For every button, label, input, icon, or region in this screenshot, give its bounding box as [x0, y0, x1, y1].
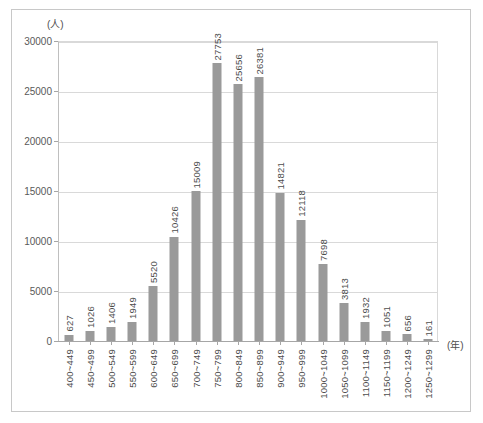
- bar-slot: 27753: [206, 41, 227, 341]
- x-axis-category-label: 600~649: [148, 349, 159, 388]
- x-axis-category-label: 450~499: [84, 349, 95, 388]
- x-axis-tick-mark: [69, 341, 70, 345]
- x-axis-tick-mark: [301, 341, 302, 345]
- y-axis-tick-mark: [54, 41, 58, 42]
- x-axis-tick-mark: [259, 341, 260, 345]
- bar-slot: 627: [58, 41, 79, 341]
- bar-slot: 1932: [354, 41, 375, 341]
- x-axis-tick-mark: [407, 341, 408, 345]
- bar-chart-figure: (人) (年) 300002500020000150001000050000 6…: [0, 0, 483, 423]
- y-axis-tick-mark: [54, 341, 58, 342]
- y-axis-tick-label: 25000: [24, 86, 52, 97]
- x-axis-tick-mark: [280, 341, 281, 345]
- bar-value-label: 27753: [211, 33, 222, 60]
- bar-slot: 15009: [185, 41, 206, 341]
- x-axis-category-label: 750~799: [211, 349, 222, 388]
- bar[interactable]: [128, 322, 137, 341]
- y-axis-tick-mark: [54, 191, 58, 192]
- x-axis-tick-mark: [365, 341, 366, 345]
- x-axis-tick-mark: [196, 341, 197, 345]
- bar-value-label: 161: [423, 320, 434, 336]
- x-axis-category-label: 800~849: [232, 349, 243, 388]
- bar-value-label: 12118: [296, 190, 307, 217]
- y-axis-tick-mark: [54, 91, 58, 92]
- bar-slot: 656: [397, 41, 418, 341]
- bar[interactable]: [149, 286, 158, 341]
- bar-slot: 10426: [164, 41, 185, 341]
- x-axis-category-label: 1050~1099: [338, 349, 349, 399]
- y-axis-tick-mark: [54, 241, 58, 242]
- bar-slot: 1949: [122, 41, 143, 341]
- bar[interactable]: [212, 63, 221, 341]
- x-axis-tick-mark: [111, 341, 112, 345]
- bar-slot: 26381: [249, 41, 270, 341]
- x-axis-tick-mark: [153, 341, 154, 345]
- x-axis-tick-mark: [323, 341, 324, 345]
- bar-slot: 3813: [333, 41, 354, 341]
- x-axis-category-label: 700~749: [190, 349, 201, 388]
- bar-slot: 1406: [100, 41, 121, 341]
- bar-value-label: 1932: [359, 297, 370, 319]
- bar-value-label: 15009: [190, 161, 201, 188]
- bar[interactable]: [191, 191, 200, 341]
- bar-value-label: 5520: [148, 261, 159, 283]
- y-axis-tick-label: 30000: [24, 36, 52, 47]
- x-axis-category-label: 850~899: [254, 349, 265, 388]
- x-axis-category-label: 1150~1199: [381, 349, 392, 397]
- bar-value-label: 627: [63, 315, 74, 331]
- bar[interactable]: [339, 303, 348, 341]
- bar[interactable]: [318, 264, 327, 341]
- bar-value-label: 1051: [381, 306, 392, 328]
- bar-value-label: 7698: [317, 239, 328, 261]
- y-axis-tick-labels: 300002500020000150001000050000: [0, 0, 52, 423]
- bar-slot: 5520: [143, 41, 164, 341]
- bar-value-label: 25656: [232, 54, 243, 81]
- bar-value-label: 3813: [338, 278, 349, 300]
- bar-slot: 1026: [79, 41, 100, 341]
- y-axis-tick-label: 0: [46, 336, 52, 347]
- x-axis-category-label: 900~949: [275, 349, 286, 388]
- bar[interactable]: [276, 193, 285, 341]
- bar[interactable]: [170, 237, 179, 341]
- x-axis-tick-mark: [217, 341, 218, 345]
- x-axis-category-label: 1000~1049: [317, 349, 328, 399]
- y-axis-tick-mark: [54, 291, 58, 292]
- x-axis-tick-mark: [174, 341, 175, 345]
- x-axis-category-labels: 400~449450~499500~549550~599600~649650~6…: [58, 349, 439, 413]
- y-axis-tick-label: 15000: [24, 186, 52, 197]
- y-axis-tick-label: 10000: [24, 236, 52, 247]
- bar-slot: 12118: [291, 41, 312, 341]
- x-axis-category-label: 950~999: [296, 349, 307, 388]
- bar-slot: 161: [418, 41, 439, 341]
- bar[interactable]: [382, 331, 391, 342]
- bar-slot: 1051: [376, 41, 397, 341]
- x-axis-category-label: 550~599: [127, 349, 138, 388]
- bar-value-label: 1949: [127, 297, 138, 319]
- bar-value-label: 26381: [254, 47, 265, 74]
- x-axis-category-label: 500~549: [105, 349, 116, 388]
- bar-slot: 25656: [227, 41, 248, 341]
- bar[interactable]: [233, 84, 242, 341]
- bar-slot: 7698: [312, 41, 333, 341]
- bar-slot: 14821: [270, 41, 291, 341]
- bars-layer: 6271026140619495520104261500927753256562…: [58, 41, 439, 341]
- bar-value-label: 656: [402, 315, 413, 331]
- x-axis-tick-mark: [132, 341, 133, 345]
- bar[interactable]: [85, 331, 94, 341]
- bar[interactable]: [106, 327, 115, 341]
- y-axis-tick-label: 5000: [30, 286, 52, 297]
- x-axis-category-label: 1200~1249: [402, 349, 413, 399]
- bar[interactable]: [297, 220, 306, 341]
- x-axis-ticks: [58, 341, 439, 347]
- x-axis-tick-mark: [238, 341, 239, 345]
- x-axis-category-label: 1250~1299: [423, 349, 434, 399]
- bar[interactable]: [360, 322, 369, 341]
- x-axis-category-label: 650~699: [169, 349, 180, 388]
- bar[interactable]: [255, 77, 264, 341]
- x-axis-tick-mark: [428, 341, 429, 345]
- bar-value-label: 14821: [275, 162, 286, 189]
- x-axis-tick-mark: [386, 341, 387, 345]
- y-axis-tick-mark: [54, 141, 58, 142]
- x-axis-tick-mark: [344, 341, 345, 345]
- x-axis-category-label: 400~449: [63, 349, 74, 388]
